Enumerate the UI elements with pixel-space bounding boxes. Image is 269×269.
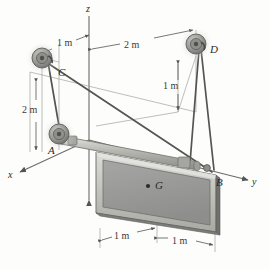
dimension-label-bottom-left: 1 m	[114, 231, 129, 241]
dimension-label-top-left: 1 m	[57, 38, 72, 48]
axis-label-x: x	[8, 170, 12, 180]
axis-label-y: y	[252, 177, 256, 187]
point-label-G: G	[155, 180, 163, 191]
point-label-C: C	[58, 67, 65, 78]
dimension-label-left: 2 m	[22, 105, 37, 115]
cable-D-A	[190, 50, 199, 163]
center-of-gravity-dot	[146, 184, 150, 188]
point-label-B: B	[216, 177, 223, 188]
axis-label-z: z	[86, 4, 90, 14]
joint-B	[204, 165, 211, 172]
statics-figure: z x y C D A B G 1 m 2 m 2 m 1 m 1 m 1 m	[0, 0, 269, 269]
point-label-D: D	[210, 44, 218, 55]
dimension-label-right: 1 m	[163, 81, 178, 91]
dimension-label-top-right: 2 m	[124, 40, 139, 50]
cable-D-B	[201, 49, 214, 170]
point-label-A: A	[48, 145, 55, 156]
dimension-label-bottom-right: 1 m	[172, 236, 187, 246]
pulley-D	[179, 27, 213, 61]
pulley-C	[25, 41, 59, 75]
